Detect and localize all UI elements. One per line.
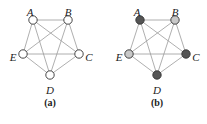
node-label-B: B [172,6,179,18]
edge-B-E [23,20,68,54]
node-label-E: E [115,51,123,63]
edge-B-E [129,20,175,54]
node-E [19,50,27,58]
edge-D-E [23,54,50,75]
node-label-C: C [192,51,200,63]
edge-A-D [33,20,50,75]
caption-b: (b) [151,97,163,109]
edge-B-D [50,20,68,75]
node-label-A: A [133,6,141,18]
edge-A-E [23,20,33,54]
edge-A-D [140,20,157,75]
node-label-A: A [26,6,34,18]
complete-graph-a: ABCDE(a) [9,6,94,110]
edge-B-C [68,20,79,54]
node-label-D: D [45,84,54,96]
node-label-B: B [65,6,72,18]
node-E [125,50,133,58]
node-C [182,50,190,58]
node-label-D: D [152,84,161,96]
edge-A-E [129,20,140,54]
node-label-E: E [9,51,17,63]
edge-D-E [129,54,157,75]
edge-A-C [33,20,79,54]
node-label-C: C [85,51,93,63]
diagram-canvas: ABCDE(a) ABCDE(b) [0,0,207,124]
node-D [46,71,54,79]
complete-graph-b: ABCDE(b) [115,6,201,110]
edge-B-C [175,20,186,54]
edge-C-D [50,54,79,75]
node-D [153,71,161,79]
edge-C-D [157,54,186,75]
node-C [75,50,83,58]
edge-B-D [157,20,175,75]
caption-a: (a) [44,97,56,109]
edge-A-C [140,20,186,54]
